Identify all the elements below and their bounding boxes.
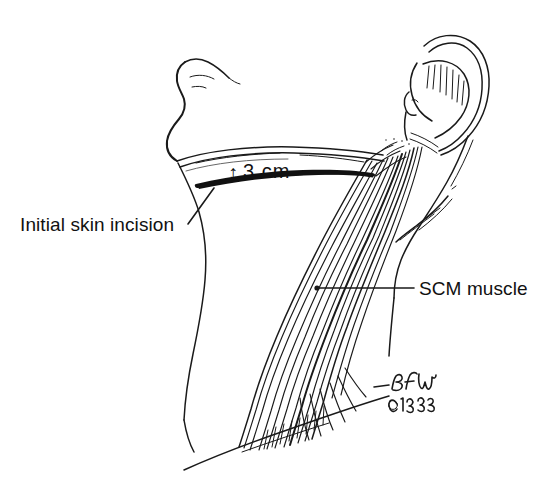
scm-muscle-label: SCM muscle [419, 278, 528, 300]
medical-illustration-figure: Initial skin incision SCM muscle ↕3 cm [0, 0, 558, 497]
incision-label: Initial skin incision [20, 214, 174, 236]
posterior-neck-trapezius [389, 136, 473, 356]
anatomy-line-drawing [0, 0, 558, 497]
clavicle-shoulder-line [184, 396, 389, 470]
leader-lines [188, 188, 414, 387]
ear-group [404, 35, 489, 155]
jaw-and-chin-group [167, 59, 384, 171]
vertical-double-arrow-icon: ↕ [228, 161, 238, 183]
artist-signature [389, 373, 436, 413]
dimension-label: ↕3 cm [228, 160, 290, 184]
scm-leader-dot [314, 285, 319, 290]
dimension-value: 3 cm [243, 160, 290, 182]
